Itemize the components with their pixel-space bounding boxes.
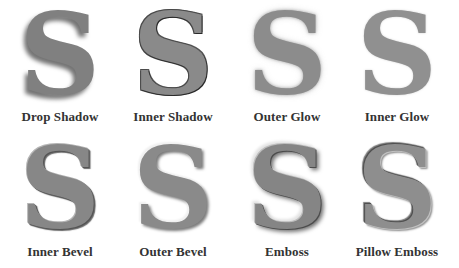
inner-glow-glyph: S (341, 4, 453, 104)
layer-effects-sampler: { "glyph": "S", "effects": [ { "id": "dr… (0, 0, 459, 268)
inner-bevel-glyph: S (4, 138, 116, 238)
inner-shadow-glyph: S (117, 4, 229, 104)
outer-glow-glyph: S (231, 4, 343, 104)
pillow-emboss-label: Pillow Emboss (331, 244, 459, 260)
outer-bevel-glyph: S (117, 138, 229, 238)
pillow-emboss-glyph: S (341, 138, 453, 238)
emboss-glyph: S (231, 138, 343, 238)
outer-bevel-label: Outer Bevel (107, 244, 239, 260)
drop-shadow-glyph: S (4, 4, 116, 104)
